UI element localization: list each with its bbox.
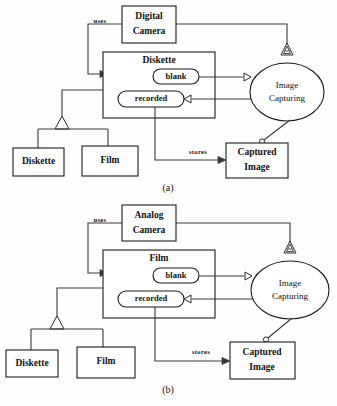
generalization-triangle-sub-b	[50, 316, 64, 329]
captured-image-label-line1-b: Captured	[243, 347, 283, 357]
node-image-capturing-a	[250, 63, 324, 121]
sub-diskette-label-a: Diskette	[22, 156, 55, 166]
edge-label-stores-a: stores	[189, 148, 207, 155]
edge-label-stores-b: stores	[192, 348, 210, 355]
arrow-stores-b	[222, 358, 230, 365]
digital-camera-label-line1: Digital	[135, 11, 163, 21]
uml-canvas: Digital Camera uses Diskette blank recor…	[0, 0, 337, 406]
panel-a-caption: (a)	[162, 182, 173, 194]
arrowhead-blank-b	[245, 272, 252, 280]
uml-diagram-figure: Digital Camera uses Diskette blank recor…	[0, 0, 337, 406]
edge-usecase-capturedimage-b	[268, 318, 292, 338]
arrow-stores-a	[218, 157, 226, 164]
panel-b-caption: (b)	[162, 384, 174, 396]
edge-camera-usecase-a	[176, 24, 287, 50]
attr-blank-label-b: blank	[166, 270, 187, 280]
image-capturing-label-line2-a: Capturing	[269, 93, 305, 103]
diskette-class-label: Diskette	[142, 55, 175, 65]
edge-generalization-stem-b	[57, 288, 103, 322]
aggregation-circle-b	[263, 337, 268, 342]
captured-image-label-line2-a: Image	[244, 162, 269, 172]
generalization-triangle-sub-a	[55, 116, 69, 129]
sub-film-label-b: Film	[97, 356, 116, 366]
digital-camera-label-line2: Camera	[133, 26, 166, 36]
panel-b: Analog Camera uses Film blank recorded I…	[6, 205, 329, 396]
image-capturing-label-line2-b: Capturing	[272, 291, 308, 301]
sub-film-label-a: Film	[101, 155, 120, 165]
attr-recorded-label-a: recorded	[135, 93, 168, 103]
captured-image-label-line1-a: Captured	[238, 147, 278, 157]
edge-label-uses-a: uses	[94, 17, 107, 24]
film-class-label: Film	[150, 253, 169, 263]
panel-a: Digital Camera uses Diskette blank recor…	[13, 6, 324, 194]
image-capturing-label-line1-b: Image	[279, 278, 302, 288]
analog-camera-label-line2: Camera	[133, 225, 166, 235]
edge-label-uses-b: uses	[94, 216, 107, 223]
sub-diskette-label-b: Diskette	[15, 358, 48, 368]
analog-camera-label-line1: Analog	[134, 210, 163, 220]
edge-camera-usecase-b	[176, 223, 290, 248]
captured-image-label-line2-b: Image	[249, 362, 274, 372]
edge-generalization-stem-a	[62, 90, 103, 122]
node-image-capturing-b	[251, 261, 329, 319]
arrowhead-blank-a	[244, 73, 251, 81]
attr-recorded-label-b: recorded	[135, 293, 168, 303]
attr-blank-label-a: blank	[166, 71, 187, 81]
edge-usecase-capturedimage-a	[264, 120, 290, 140]
image-capturing-label-line1-a: Image	[276, 80, 299, 90]
